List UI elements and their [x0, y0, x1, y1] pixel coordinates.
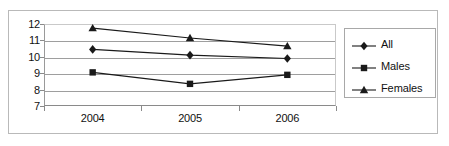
data-point-marker: [89, 69, 95, 75]
legend-item-males[interactable]: Males: [351, 59, 410, 73]
line-chart: 789101112 200420052006 AllMalesFemales: [0, 0, 449, 146]
y-axis-labels: 789101112: [14, 24, 40, 106]
legend-label: Males: [381, 60, 410, 72]
x-tick-label: 2005: [178, 112, 202, 124]
x-tick-mark: [44, 106, 45, 111]
data-point-marker: [284, 72, 290, 78]
x-tick-label: 2004: [81, 112, 105, 124]
x-tick-mark: [336, 106, 337, 111]
x-tick-mark: [239, 106, 240, 111]
data-point-marker: [187, 81, 193, 87]
legend-item-females[interactable]: Females: [351, 81, 422, 95]
y-tick-label: 12: [28, 18, 40, 30]
legend-item-all[interactable]: All: [351, 37, 393, 51]
data-point-marker: [89, 45, 96, 54]
x-tick-label: 2006: [275, 112, 299, 124]
legend: AllMalesFemales: [344, 28, 436, 98]
legend-label: All: [381, 38, 393, 50]
x-tick-mark: [141, 106, 142, 111]
legend-label: Females: [381, 82, 422, 94]
square-marker-icon: [351, 60, 377, 72]
series-males: [89, 69, 290, 87]
series-layer: [44, 24, 336, 106]
y-tick-label: 10: [28, 51, 40, 63]
data-point-marker: [186, 51, 193, 60]
diamond-marker-icon: [351, 38, 377, 50]
series-all: [89, 45, 291, 63]
triangle-marker-icon: [351, 82, 377, 94]
data-point-marker: [88, 24, 96, 31]
series-females: [88, 24, 291, 49]
y-tick-label: 11: [29, 34, 40, 46]
data-point-marker: [284, 54, 291, 63]
data-point-marker: [361, 65, 367, 71]
data-point-marker: [360, 42, 367, 51]
